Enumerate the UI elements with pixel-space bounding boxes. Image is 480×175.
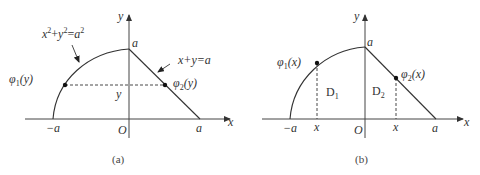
phi2-point	[394, 76, 398, 80]
y-value-label: y	[115, 87, 122, 101]
phi1-point	[63, 83, 67, 87]
circle-arc	[290, 47, 365, 119]
phi2-label: φ2(y)	[173, 76, 197, 92]
origin-label: O	[354, 123, 363, 137]
neg-a-label: −a	[283, 121, 297, 135]
region-d2-label: D2	[372, 84, 385, 100]
diagram-b: y x O −a a a x x D1 D2 φ1(x) φ2(x) (b)	[262, 9, 470, 166]
phi1-label: φ1(x)	[277, 55, 301, 71]
y-axis-label: y	[353, 9, 360, 23]
neg-a-label: −a	[46, 121, 60, 135]
pos-a-label: a	[196, 121, 202, 135]
x2-label: x	[392, 120, 399, 134]
x1-label: x	[313, 120, 320, 134]
diagram-a: y x O −a a a y x2+y2=a2 x+y=a φ1(y) φ2(y…	[9, 9, 234, 166]
origin-label: O	[118, 123, 127, 137]
phi2-label: φ2(x)	[401, 67, 425, 83]
circle-equation: x2+y2=a2	[41, 26, 84, 41]
x-axis-label: x	[463, 115, 470, 129]
line-equation: x+y=a	[177, 53, 211, 67]
phi1-point	[315, 61, 319, 65]
phi2-point	[163, 83, 167, 87]
phi1-label: φ1(y)	[9, 72, 33, 88]
caption-b: (b)	[355, 153, 368, 166]
line-x-plus-y-eq-a	[365, 47, 436, 119]
region-d1-label: D1	[326, 85, 339, 101]
caption-a: (a)	[112, 153, 125, 166]
pos-a-label: a	[432, 121, 438, 135]
y-axis-label: y	[117, 9, 124, 23]
top-a-label: a	[367, 35, 373, 49]
circle-pointer-arrow	[72, 45, 79, 62]
x-axis-label: x	[227, 115, 234, 129]
line-pointer-arrow	[158, 64, 170, 72]
top-a-label: a	[132, 36, 138, 50]
